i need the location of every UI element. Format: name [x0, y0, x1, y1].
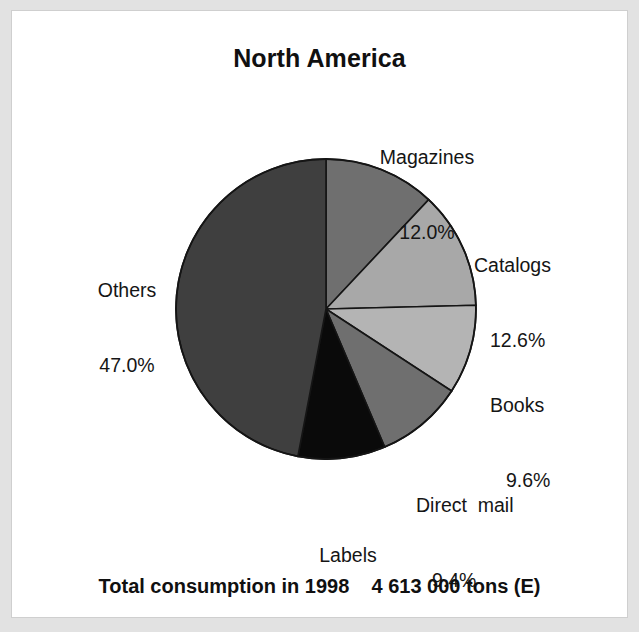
slice-label-direct-mail-name: Direct mail	[416, 493, 596, 518]
slice-label-magazines-name: Magazines	[352, 145, 502, 170]
chart-canvas: North America Magazines 12.0% Catalogs 1…	[11, 10, 628, 618]
slice-label-others: Others 47.0%	[67, 228, 187, 428]
figure-frame: North America Magazines 12.0% Catalogs 1…	[0, 0, 639, 632]
slice-label-catalogs-name: Catalogs	[474, 253, 628, 278]
slice-label-books-name: Books	[490, 393, 628, 418]
slice-label-others-value: 47.0%	[67, 353, 187, 378]
slice-label-labels: Labels 9.4%	[293, 493, 403, 618]
pie-slice-others	[176, 159, 326, 456]
slice-label-others-name: Others	[67, 278, 187, 303]
chart-caption: Total consumption in 1998 4 613 000 tons…	[12, 575, 627, 598]
slice-label-labels-name: Labels	[293, 543, 403, 568]
